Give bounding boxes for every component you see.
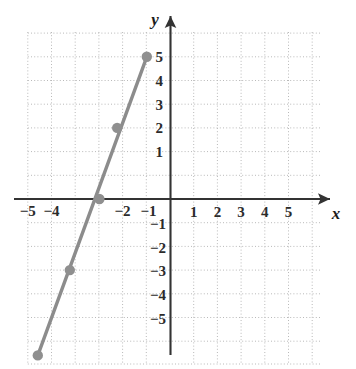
x-tick-label: 2 [214, 204, 222, 220]
y-tick-label: 5 [156, 49, 164, 65]
data-point-marker [142, 52, 152, 62]
x-tick-label: 4 [261, 204, 269, 220]
y-tick-label: 2 [156, 120, 164, 136]
data-point-marker [94, 194, 104, 204]
x-tick-label: −5 [20, 203, 36, 219]
x-tick-label: −4 [43, 203, 60, 219]
x-axis-label: x [331, 204, 341, 223]
data-point-marker [33, 350, 43, 360]
y-tick-label: 4 [156, 73, 164, 89]
y-tick-label: 1 [156, 144, 164, 160]
y-tick-label: −5 [150, 311, 166, 327]
y-tick-label: −4 [150, 287, 167, 303]
y-tick-label: −2 [150, 240, 166, 256]
y-tick-label: 3 [156, 97, 164, 113]
graph-canvas: x y −5 −4 −2 −1 1 2 3 4 5 5 4 3 2 1 −1 −… [0, 0, 356, 369]
x-tick-label: 1 [190, 204, 198, 220]
y-axis-label: y [149, 10, 159, 29]
data-point-marker [112, 123, 122, 133]
y-tick-label: −1 [150, 216, 166, 232]
x-tick-label: −2 [115, 203, 131, 219]
coordinate-plane-figure: x y −5 −4 −2 −1 1 2 3 4 5 5 4 3 2 1 −1 −… [0, 0, 356, 369]
x-tick-label: 3 [237, 204, 245, 220]
data-point-marker [65, 265, 75, 275]
y-tick-label: −3 [150, 263, 166, 279]
x-tick-label: 5 [285, 204, 293, 220]
